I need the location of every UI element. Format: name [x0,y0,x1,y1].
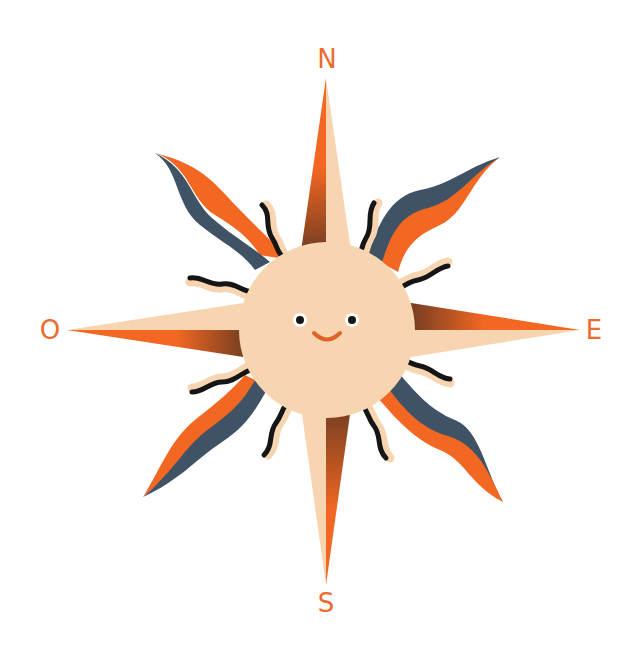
label-west: O [40,315,60,345]
point-north [300,78,352,258]
ray-northeast [368,157,500,272]
point-west [67,302,250,358]
ray-southwest [143,375,268,497]
label-east: E [586,315,602,345]
label-north: N [317,44,336,74]
point-east [405,302,580,358]
ray-southeast [378,372,503,502]
label-south: S [318,588,335,618]
compass-sun-illustration: N E S O [0,0,635,654]
sun-face [239,242,415,418]
point-south [300,400,352,585]
